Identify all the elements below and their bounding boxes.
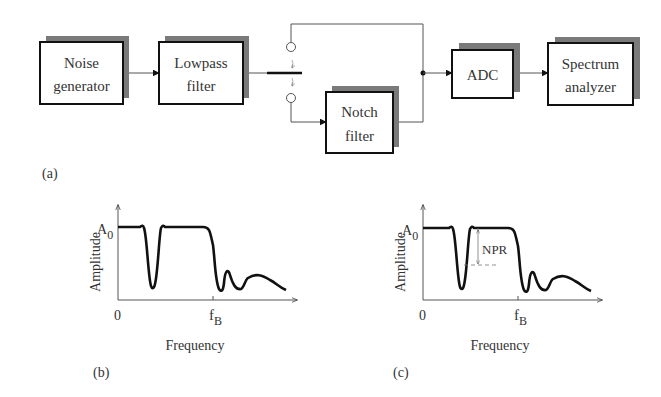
switch-contact-top [287, 43, 296, 52]
x-axis-label: Frequency [165, 338, 224, 353]
y-axis-label: Amplitude [393, 232, 408, 292]
block-noise-generator: Noise generator [40, 36, 129, 104]
x-origin-label: 0 [419, 308, 426, 323]
plot-c: NPR A0 0 fB Amplitude Frequency (c) [393, 205, 602, 381]
block-lowpass-filter: Lowpass filter [159, 36, 249, 104]
spectrum-label-1: Spectrum [562, 56, 620, 72]
block-notch-filter: Notch filter [326, 86, 399, 153]
switch [249, 43, 302, 103]
x-mark-label: fB [209, 307, 222, 328]
wire-notch-out [399, 73, 423, 122]
block-spectrum-analyzer: Spectrum analyzer [548, 37, 640, 105]
noise-label-1: Noise [64, 55, 99, 71]
lowpass-label-1: Lowpass [174, 55, 227, 71]
npr-label: NPR [482, 242, 508, 257]
switch-contact-bottom [287, 94, 296, 103]
label-b: (b) [93, 365, 110, 381]
spectrum-curve [118, 226, 286, 291]
notch-label-2: filter [345, 128, 374, 144]
x-origin-label: 0 [114, 308, 121, 323]
x-axis-label: Frequency [470, 338, 529, 353]
label-a: (a) [42, 166, 58, 182]
x-mark-label: fB [514, 307, 527, 328]
label-c: (c) [393, 365, 409, 381]
notch-label-1: Notch [341, 104, 378, 120]
adc-label: ADC [467, 67, 499, 83]
noise-label-2: generator [53, 78, 110, 94]
wire-to-notch [291, 103, 326, 122]
spectrum-curve [423, 227, 591, 292]
lowpass-label-2: filter [186, 78, 215, 94]
plot-b: A0 0 fB Amplitude Frequency (b) [88, 205, 297, 381]
y-axis-label: Amplitude [88, 232, 103, 292]
block-diagram-and-spectra: Noise generator Lowpass filter Notch fil… [0, 0, 661, 397]
spectrum-label-2: analyzer [565, 79, 616, 95]
wire-bypass [291, 24, 423, 73]
block-adc: ADC [452, 43, 520, 98]
